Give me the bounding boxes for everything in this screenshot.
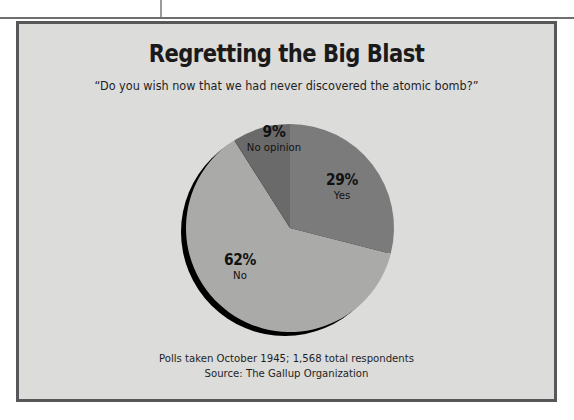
pie-label-yes-percent: 29% [291,172,392,189]
pie-label-no-name: No [186,269,295,283]
pie-label-yes-name: Yes [291,189,392,203]
pie-label-no-opinion: 9% No opinion [215,124,333,155]
pie-chart: 9% No opinion 29% Yes 62% No [19,24,554,399]
vertical-rule [160,0,162,18]
pie-label-no-opinion-name: No opinion [220,141,329,155]
page-scan-artifacts [0,0,574,22]
pie-label-no: 62% No [181,252,299,283]
pie-label-no-percent: 62% [186,252,295,269]
footnote-line-1: Polls taken October 1945; 1,568 total re… [40,352,532,367]
pie-chart-svg [19,24,554,399]
pie-slices [186,124,394,332]
pie-label-no-opinion-percent: 9% [220,124,329,141]
chart-footnote: Polls taken October 1945; 1,568 total re… [40,352,532,381]
horizontal-rule [0,17,574,19]
figure-inner: Regretting the Big Blast “Do you wish no… [19,24,554,399]
footnote-line-2: Source: The Gallup Organization [40,367,532,382]
figure-frame: Regretting the Big Blast “Do you wish no… [16,21,557,402]
pie-label-yes: 29% Yes [287,172,397,203]
